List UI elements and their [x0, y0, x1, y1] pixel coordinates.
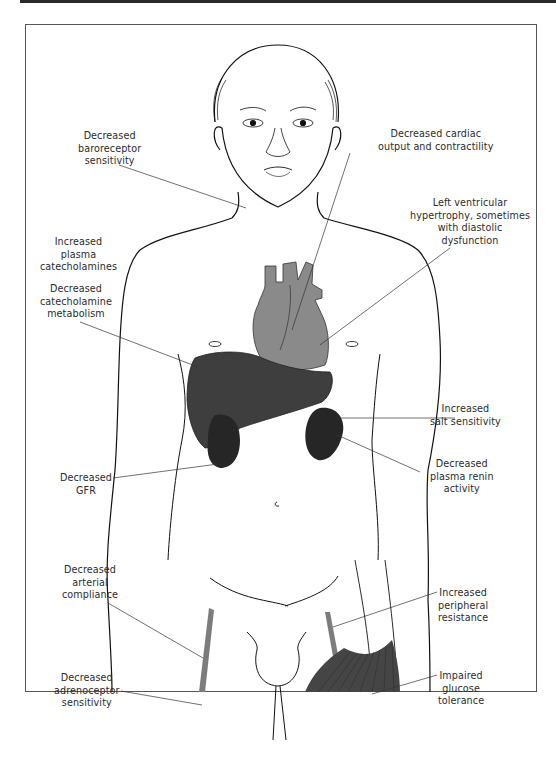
label-line: Decreased — [54, 672, 120, 685]
label-line: adrenoceptor — [54, 685, 120, 698]
label-cardiac: Decreased cardiac output and contractili… — [378, 128, 493, 153]
label-arterial: Decreased arterial compliance — [62, 564, 118, 602]
leader-lines — [80, 153, 455, 705]
label-line: peripheral — [438, 600, 488, 613]
label-line: salt sensitivity — [430, 416, 501, 429]
label-line: with diastolic — [410, 222, 530, 235]
body-illustration — [0, 0, 556, 766]
label-line: Decreased — [60, 472, 112, 485]
label-lvh: Left ventricular hypertrophy, sometimes … — [410, 197, 530, 247]
label-renin: Decreased plasma renin activity — [430, 458, 494, 496]
label-line: catecholamine — [40, 296, 112, 309]
label-line: catecholamines — [40, 261, 117, 274]
label-line: Decreased cardiac — [378, 128, 493, 141]
head — [214, 45, 341, 218]
label-line: Increased — [40, 236, 117, 249]
label-catecholamines: Increased plasma catecholamines — [40, 236, 117, 274]
label-line: plasma — [40, 249, 117, 262]
label-line: Decreased — [430, 458, 494, 471]
label-line: baroreceptor — [78, 143, 141, 156]
label-peripheral: Increased peripheral resistance — [438, 587, 488, 625]
label-line: resistance — [438, 612, 488, 625]
label-adrenoceptor: Decreased adrenoceptor sensitivity — [54, 672, 120, 710]
label-line: sensitivity — [78, 155, 141, 168]
label-line: Left ventricular — [410, 197, 530, 210]
label-line: Decreased — [62, 564, 118, 577]
label-glucose: Impaired glucose tolerance — [438, 670, 484, 708]
label-line: Decreased — [78, 130, 141, 143]
label-line: Increased — [430, 403, 501, 416]
label-line: GFR — [60, 485, 112, 498]
heart — [253, 262, 328, 370]
label-baroreceptor: Decreased baroreceptor sensitivity — [78, 130, 141, 168]
label-catecholamine-metabolism: Decreased catecholamine metabolism — [40, 283, 112, 321]
label-line: hypertrophy, sometimes — [410, 210, 530, 223]
label-gfr: Decreased GFR — [60, 472, 112, 497]
label-line: activity — [430, 483, 494, 496]
label-line: metabolism — [40, 308, 112, 321]
label-line: arterial — [62, 577, 118, 590]
label-line: glucose — [438, 683, 484, 696]
label-line: Increased — [438, 587, 488, 600]
label-line: Decreased — [40, 283, 112, 296]
label-line: compliance — [62, 589, 118, 602]
label-line: dysfunction — [410, 235, 530, 248]
thigh-muscle — [305, 640, 400, 692]
label-line: plasma renin — [430, 471, 494, 484]
label-line: output and contractility — [378, 141, 493, 154]
label-line: tolerance — [438, 695, 484, 708]
label-line: sensitivity — [54, 697, 120, 710]
label-line: Impaired — [438, 670, 484, 683]
label-salt: Increased salt sensitivity — [430, 403, 501, 428]
